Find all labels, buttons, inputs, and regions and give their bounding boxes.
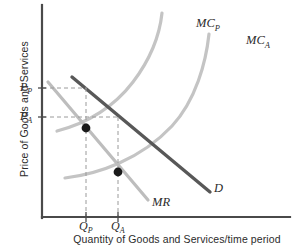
x-tick-label-qp: QP <box>79 219 93 235</box>
x-tick-label-qp-sub: P <box>88 226 93 235</box>
equilibrium-point-a <box>114 168 123 177</box>
x-tick-label-qa: QA <box>111 219 125 235</box>
y-tick-label-pp-sub: P <box>27 87 32 96</box>
curve-label-mca: MCA <box>246 33 270 50</box>
curve-label-mr: MR <box>152 195 170 210</box>
y-tick-label-pp: PP <box>20 80 32 96</box>
curve-label-mcp: MCP <box>196 16 220 33</box>
y-tick-label-pa: PA <box>20 109 32 125</box>
curve-mca <box>65 34 209 178</box>
chart-canvas: Price of Goods and Services Quantity of … <box>0 0 296 248</box>
x-tick-label-qa-main: Q <box>111 219 120 233</box>
x-tick-label-qa-sub: A <box>120 226 125 235</box>
x-tick-label-qp-main: Q <box>79 219 88 233</box>
curve-label-mcp-main: MC <box>196 16 215 30</box>
equilibrium-point-p <box>82 124 91 133</box>
curve-label-demand: D <box>214 181 223 196</box>
y-tick-label-pa-sub: A <box>27 116 32 125</box>
curve-label-mcp-sub: P <box>215 23 220 33</box>
curve-label-mca-sub: A <box>265 40 270 50</box>
x-axis-title: Quantity of Goods and Services/time peri… <box>62 233 292 245</box>
curve-label-mca-main: MC <box>246 33 265 47</box>
